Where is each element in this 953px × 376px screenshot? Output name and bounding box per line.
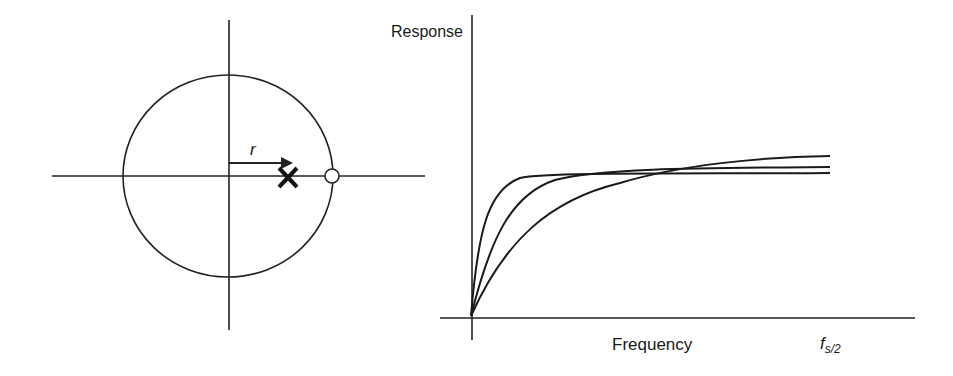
- response-curve-fast: [471, 173, 830, 316]
- y-axis-label: Response: [391, 23, 463, 40]
- x-axis-label: Frequency: [612, 335, 693, 354]
- arrowhead-icon: [281, 157, 293, 169]
- pole-zero-plot: r: [52, 20, 425, 330]
- zero-circle-icon: [325, 169, 339, 183]
- figure: r Response Frequency fs/2: [0, 0, 953, 376]
- pole-x-icon: [279, 168, 297, 187]
- response-plot: Response Frequency fs/2: [391, 15, 915, 356]
- radius-label: r: [250, 140, 257, 159]
- response-curve-slow: [471, 156, 830, 316]
- nyquist-label-sub: s/2: [825, 342, 841, 356]
- nyquist-label: fs/2: [820, 334, 841, 356]
- response-curve-medium: [471, 167, 830, 316]
